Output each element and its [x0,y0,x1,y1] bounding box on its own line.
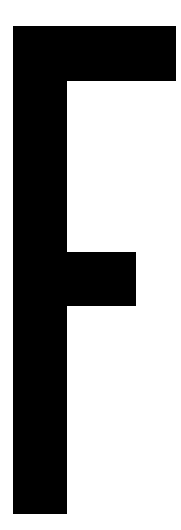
letter-f-top-arm [13,26,176,81]
glyph-letter: F [0,0,1,1]
letter-f-glyph: F [0,0,181,530]
letter-f-middle-arm [13,252,136,306]
